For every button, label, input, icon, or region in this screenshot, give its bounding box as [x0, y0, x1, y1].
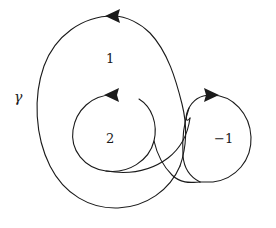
- outer-right-descender-path: [113, 16, 186, 166]
- curve-diagram-svg: [0, 0, 276, 228]
- right-loop-arrow-icon: [204, 88, 219, 102]
- inner-lower-strand-path: [106, 118, 190, 172]
- curve-name-label: γ: [14, 90, 22, 104]
- winding-number-figure: γ 1 2 −1: [0, 0, 276, 228]
- inner-top-arrow-icon: [104, 88, 119, 102]
- outer-top-arrow-icon: [105, 9, 120, 23]
- inner-to-right-connector-path: [154, 141, 200, 182]
- outer-loop-path: [37, 16, 180, 208]
- region-label-outer: 1: [106, 52, 114, 65]
- region-label-inner: 2: [106, 132, 114, 145]
- region-label-right: −1: [214, 132, 233, 145]
